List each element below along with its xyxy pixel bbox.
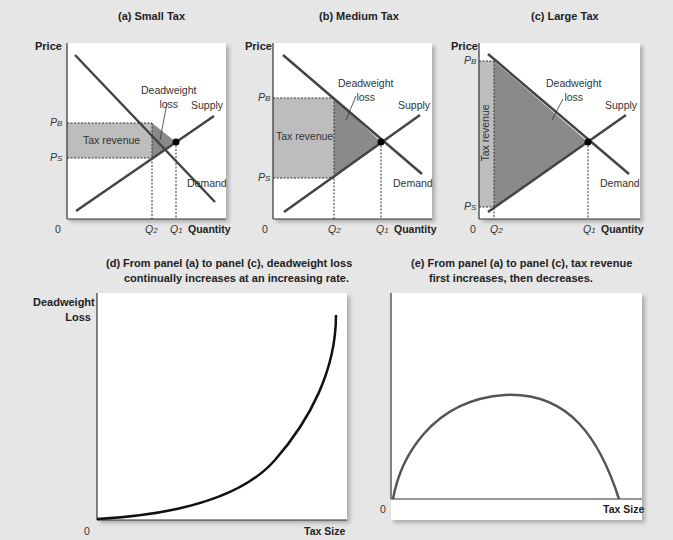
panel-a-supply-label: Supply (191, 99, 223, 111)
panel-e-origin: 0 (380, 503, 386, 515)
panel-b-demand-label: Demand (393, 177, 433, 189)
panel-c-ps-letter: P (464, 200, 471, 212)
panel-a-dwl-label: Deadweightloss (141, 83, 196, 111)
panel-a-x-axis-label: Quantity (188, 223, 231, 235)
panel-d-plot (97, 293, 347, 520)
panel-a-ps-label: PS (50, 151, 62, 163)
panel-c-pb-letter: P (464, 54, 471, 66)
panel-a-pb-letter: P (50, 116, 57, 128)
panel-b-q1-letter: Q (376, 223, 384, 235)
panel-c-y-axis-label: Price (451, 40, 478, 52)
panel-a-q1-label: Q1 (170, 223, 183, 235)
panel-d-y-axis-line1: Deadweight (33, 296, 95, 308)
panel-b-origin: 0 (262, 223, 268, 235)
panel-b-pb-label: PB (258, 91, 270, 103)
panel-c-dwl-label: Deadweightloss (546, 76, 601, 104)
panel-c-q1-letter: Q (583, 223, 591, 235)
panel-a-origin: 0 (55, 223, 61, 235)
panel-c-q1-sub: 1 (591, 226, 595, 235)
panel-d-title: (d) From panel (a) to panel (c), deadwei… (106, 256, 352, 286)
panel-b-q2-label: Q2 (328, 223, 341, 235)
panel-b-ps-sub: S (265, 174, 270, 183)
panel-b-y-axis-label: Price (245, 40, 272, 52)
panel-b-ps-letter: P (258, 171, 265, 183)
panel-c-q2-letter: Q (490, 223, 498, 235)
panel-a-ps-sub: S (57, 154, 62, 163)
panel-c-supply-label: Supply (605, 99, 637, 111)
panel-a-demand-label: Demand (187, 177, 227, 189)
panel-b-x-axis-label: Quantity (394, 223, 437, 235)
panel-d-x-axis-label: Tax Size (304, 525, 345, 537)
panel-c-pb-sub: B (471, 57, 476, 66)
panel-c-demand-label: Demand (600, 177, 640, 189)
panel-b-supply-label: Supply (398, 99, 430, 111)
panel-a-y-axis-label: Price (35, 40, 62, 52)
panel-b-q1-sub: 1 (384, 226, 388, 235)
panel-a-q2-letter: Q (145, 223, 153, 235)
panel-d-title-line1: (d) From panel (a) to panel (c), deadwei… (106, 257, 352, 269)
panel-e-x-axis-label: Tax Size (603, 503, 644, 515)
panel-b-ps-label: PS (258, 171, 270, 183)
panel-a-dwl-line1: Deadweight (141, 84, 196, 96)
panel-b-revenue-label: Tax revenue (276, 130, 333, 142)
panel-c-dwl-line2: loss (564, 91, 583, 103)
panel-c-ps-sub: S (471, 203, 476, 212)
panel-c-pb-label: PB (464, 54, 476, 66)
panel-c-dwl-line1: Deadweight (546, 77, 601, 89)
panel-b-q1-label: Q1 (376, 223, 389, 235)
panel-a-dwl-line2: loss (159, 98, 178, 110)
panel-c-q2-label: Q2 (490, 223, 503, 235)
panel-d-title-line2: continually increases at an increasing r… (106, 272, 349, 284)
panel-a-title: (a) Small Tax (118, 10, 185, 22)
panel-a-revenue-label: Tax revenue (83, 134, 140, 146)
panel-d-origin: 0 (84, 525, 90, 537)
panel-c-x-axis-label: Quantity (601, 223, 644, 235)
panel-e-title-line1: (e) From panel (a) to panel (c), tax rev… (411, 257, 632, 269)
panel-e-title: (e) From panel (a) to panel (c), tax rev… (411, 256, 632, 286)
panel-d-y-axis-label: DeadweightLoss (33, 295, 91, 325)
panel-a-q2-label: Q2 (145, 223, 158, 235)
panel-d-y-axis-line2: Loss (65, 311, 91, 323)
panel-b-dwl-line1: Deadweight (338, 77, 393, 89)
panel-b-title: (b) Medium Tax (319, 10, 399, 22)
panel-c-q1-label: Q1 (583, 223, 596, 235)
panel-a-q1-sub: 1 (178, 226, 182, 235)
panel-c-plot (479, 43, 640, 219)
panel-b-dwl-label: Deadweightloss (338, 76, 393, 104)
panel-a-q1-letter: Q (170, 223, 178, 235)
panel-b-pb-letter: P (258, 91, 265, 103)
panel-b-q2-letter: Q (328, 223, 336, 235)
panel-c-title: (c) Large Tax (531, 10, 599, 22)
panel-b-q2-sub: 2 (336, 226, 340, 235)
panel-a-pb-sub: B (57, 119, 62, 128)
panel-b-pb-sub: B (265, 94, 270, 103)
panel-e-title-line2: first increases, then decreases. (411, 272, 593, 284)
panel-a-ps-letter: P (50, 151, 57, 163)
panel-e-plot (391, 293, 642, 520)
panel-a-plot (67, 43, 226, 219)
panel-c-q2-sub: 2 (498, 226, 502, 235)
panel-c-revenue-label: Tax revenue (479, 88, 491, 178)
panel-c-ps-label: PS (464, 200, 476, 212)
panel-a-q2-sub: 2 (153, 226, 157, 235)
panel-b-dwl-line2: loss (356, 91, 375, 103)
panel-a-pb-label: PB (50, 116, 62, 128)
panel-c-origin: 0 (470, 223, 476, 235)
